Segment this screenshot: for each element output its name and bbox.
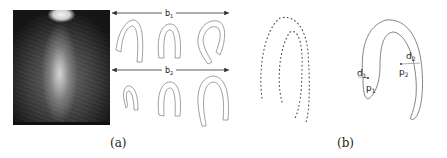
b1-shape-2	[158, 24, 180, 58]
b2-shape-3	[198, 76, 229, 126]
figure-graphics: b1 b2 d1	[0, 0, 447, 158]
b2-row-shapes	[123, 76, 228, 126]
d1-label: d1	[357, 68, 367, 79]
b2-mode-arrow: b2	[112, 64, 229, 76]
annotation-d1-p1: d1 p1	[357, 68, 376, 94]
figure: b1 b2 d1	[0, 0, 447, 158]
p2-label: p2	[399, 67, 409, 78]
annotation-d2-p2: d2 p2	[399, 51, 420, 78]
caption-a: (a)	[110, 136, 127, 150]
p1-label: p1	[366, 83, 376, 94]
b2-shape-1	[123, 86, 138, 110]
b1-row-shapes	[116, 20, 225, 64]
dotted-landmark-contour	[261, 17, 310, 122]
d2-label: d2	[406, 51, 416, 62]
b1-mode-arrow: b1	[112, 7, 229, 19]
b1-shape-3	[198, 21, 225, 64]
continuous-contour	[362, 20, 422, 120]
b1-shape-1	[116, 20, 143, 62]
b2-shape-2	[158, 82, 180, 116]
caption-b: (b)	[337, 136, 354, 150]
